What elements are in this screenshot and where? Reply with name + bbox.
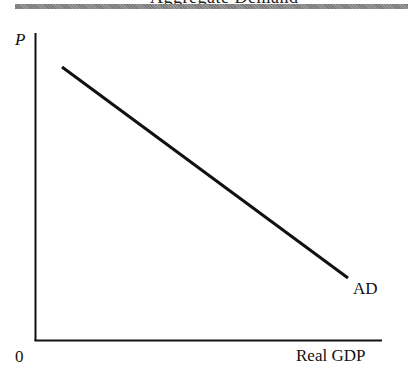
ad-chart <box>0 0 408 381</box>
ad-curve-label: AD <box>353 280 378 297</box>
ad-curve <box>62 67 348 278</box>
y-axis-label: P <box>15 31 25 48</box>
x-axis-label: Real GDP <box>296 347 365 364</box>
origin-label: 0 <box>15 348 24 365</box>
